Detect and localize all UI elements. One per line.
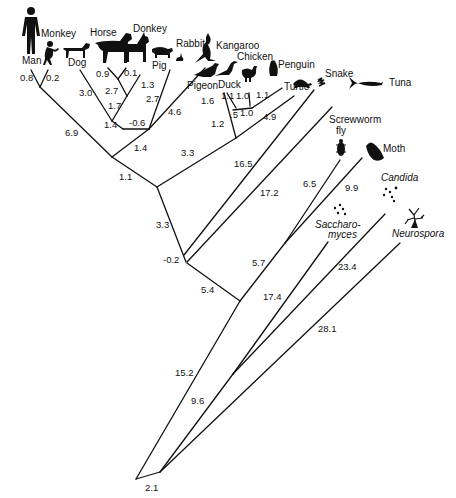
branch-pig: [127, 75, 140, 96]
bl-dog-ungulates-node: 1.4: [104, 119, 117, 130]
taxon-label-snake: Snake: [325, 68, 354, 79]
rabbit-silhouette-icon: [176, 53, 183, 61]
bl-tuna: 17.2: [260, 187, 279, 198]
chicken-silhouette-icon: [242, 66, 257, 82]
bl-snake-node: -0.2: [163, 254, 179, 265]
bl-dog: 3.0: [79, 87, 92, 98]
bl-kangaroo: 4.6: [168, 106, 181, 117]
bl-chicken: 1.0: [236, 90, 249, 101]
pigeon-silhouette-icon: [194, 63, 219, 77]
bl-sauropsids-stem: 3.3: [181, 147, 194, 158]
bl-duck-chicken-stem: 1.0: [240, 107, 253, 118]
yeast-cells-icon-candida: [383, 187, 398, 203]
phylogenetic-tree: Man Monkey Dog Horse Donkey Pig Rabbit K…: [0, 0, 456, 498]
branch-sauropsids-stem: [157, 138, 236, 187]
bl-insects-stem: 5.7: [252, 257, 265, 268]
bl-rabbit-kangaroo-link: -0.6: [129, 117, 145, 128]
bl-equids-stem: 2.7: [105, 85, 118, 96]
bl-primates-stem: 6.9: [65, 127, 78, 138]
fly-silhouette-icon: [336, 139, 346, 156]
penguin-silhouette-icon: [269, 60, 278, 76]
taxon-label-rabbit: Rabbit: [176, 38, 205, 49]
branch-saccharomyces: [233, 242, 328, 374]
branch-animals-stem: [136, 301, 240, 479]
taxon-label-moth: Moth: [383, 143, 405, 154]
bl-root: 2.1: [145, 482, 158, 493]
branch-neurospora: [160, 243, 400, 472]
bl-penguin: 1.1: [256, 89, 269, 100]
taxon-label-candida: Candida: [381, 172, 419, 183]
mold-hyphae-icon: [405, 208, 424, 228]
branch-primates-stem: [40, 87, 112, 157]
taxon-label-donkey: Donkey: [133, 23, 167, 34]
branch-horse: [108, 68, 118, 79]
bl-galliform-link: .5: [230, 109, 238, 120]
taxon-label-penguin: Penguin: [278, 59, 315, 70]
bl-snake: 16.5: [234, 158, 253, 169]
branch-vertebrates-stem: [187, 263, 240, 301]
branch-equids-stem: [118, 79, 127, 96]
bl-animals-stem: 15.2: [175, 367, 194, 378]
bl-pig: 1.3: [141, 79, 154, 90]
taxon-label-pig: Pig: [152, 60, 166, 71]
human-silhouette-icon: [22, 7, 40, 54]
bl-man: 0.8: [20, 72, 33, 83]
bl-donkey: 0.1: [124, 67, 137, 78]
bl-ungulates-stem: 1.7: [108, 100, 121, 111]
branch-candida: [233, 214, 385, 374]
yeast-cells-icon-saccharomyces: [334, 204, 346, 215]
bl-mammals-stem: 1.1: [119, 171, 132, 182]
taxon-label-monkey: Monkey: [41, 28, 76, 39]
taxon-label-tuna: Tuna: [389, 77, 412, 88]
bl-neurospora: 28.1: [318, 323, 337, 334]
taxon-label-saccharomyces-line2: myces: [328, 229, 357, 240]
bl-vertebrates-stem: 5.4: [201, 284, 214, 295]
duck-silhouette-icon: [215, 61, 238, 76]
taxon-label-fly-line2: fly: [336, 125, 346, 136]
bl-amniotes-stem: 3.3: [156, 219, 169, 230]
taxon-label-kangaroo: Kangaroo: [216, 40, 260, 51]
taxon-label-dog: Dog: [68, 57, 86, 68]
taxon-label-neurospora: Neurospora: [392, 228, 445, 239]
taxon-label-pigeon: Pigeon: [187, 80, 218, 91]
taxon-label-chicken: Chicken: [237, 51, 273, 62]
taxon-label-man: Man: [22, 55, 41, 66]
dog-silhouette-icon: [63, 43, 90, 58]
bl-pigeon: 1.6: [201, 95, 214, 106]
branch-length-labels: 0.8 0.2 6.9 3.0 0.9 0.1 2.7 1.3 1.7 1.4 …: [20, 67, 358, 493]
bl-candida: 23.4: [338, 261, 357, 272]
bl-birds-stem: 1.2: [211, 118, 224, 129]
snake-silhouette-icon: [318, 78, 325, 86]
bl-rabbit: 2.7: [146, 93, 159, 104]
bl-horse: 0.9: [96, 68, 109, 79]
bl-saccharomyces: 17.4: [263, 291, 282, 302]
branch-yeasts-stem: [160, 374, 233, 472]
bl-nonprimate-mammals-stem: 1.4: [134, 142, 147, 153]
bl-turtle: 4.9: [263, 111, 276, 122]
bl-yeasts-stem: 9.6: [191, 395, 204, 406]
taxon-label-fly-line1: Screwworm: [329, 114, 381, 125]
pig-silhouette-icon: [152, 47, 173, 58]
monkey-silhouette-icon: [43, 41, 59, 65]
taxon-label-horse: Horse: [90, 27, 117, 38]
moth-silhouette-icon: [366, 142, 384, 160]
bl-fly: 6.5: [303, 178, 316, 189]
bl-moth: 9.9: [345, 182, 358, 193]
bl-duck: 1.1: [221, 90, 234, 101]
taxon-label-duck: Duck: [218, 79, 242, 90]
fish-silhouette-icon: [349, 77, 383, 89]
bl-monkey: 0.2: [46, 72, 59, 83]
taxon-label-turtle: Turtle: [284, 81, 310, 92]
